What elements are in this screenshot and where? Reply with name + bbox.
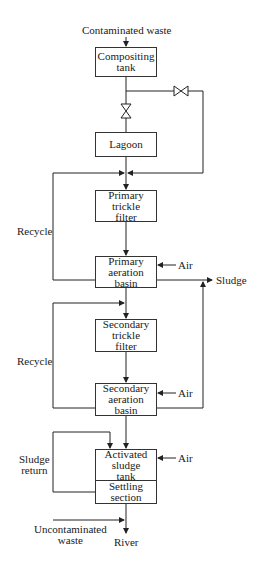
air-label-3: Air [178,453,193,464]
primary-trickle-filter-box: Primary trickle filter [95,190,157,222]
recycle-label-1: Recycle [17,226,52,237]
air-label-2: Air [178,388,193,399]
recycle-label-2: Recycle [17,356,52,367]
settling-section-box: Settling section [95,480,157,504]
lagoon-box: Lagoon [95,132,157,157]
sludge-label: Sludge [216,275,247,286]
activated-sludge-tank-box: Activated sludge tank [95,449,157,481]
primary-aeration-basin-box: Primary aeration basin [95,256,157,288]
compositing-tank-box: Compositing tank [95,47,157,77]
contaminated-waste-label: Contaminated waste [82,25,172,36]
sludge-return-label: Sludge return [19,454,50,476]
secondary-trickle-filter-box: Secondary trickle filter [95,319,157,352]
uncontaminated-waste-label: Uncontaminated waste [34,524,107,546]
secondary-aeration-basin-box: Secondary aeration basin [95,383,157,416]
air-label-1: Air [178,260,193,271]
river-label: River [114,537,138,548]
